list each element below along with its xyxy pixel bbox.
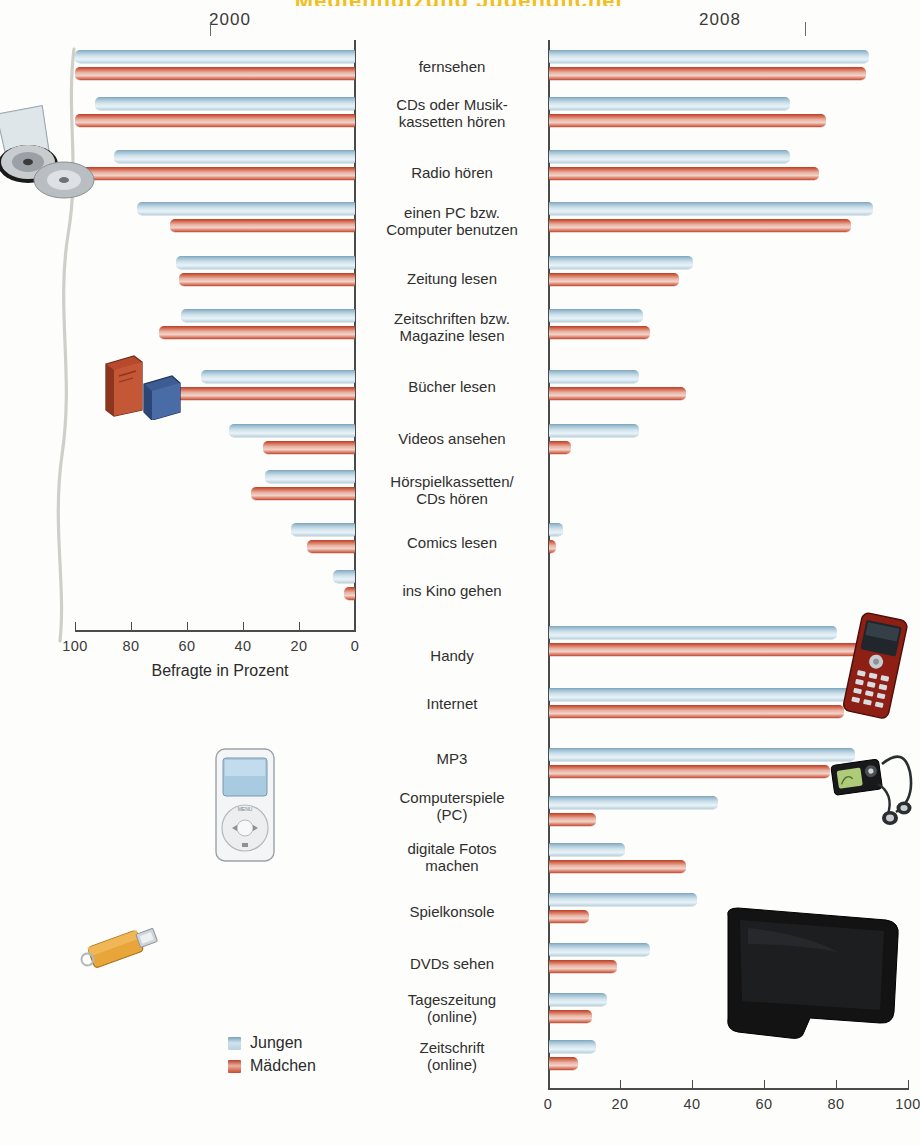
axis-tick-label-right: 0 <box>526 1096 570 1112</box>
bar-2008-jungen <box>549 256 693 269</box>
axis-vertical-right <box>548 40 550 1088</box>
category-label: Hörspielkassetten/CDs hören <box>358 473 546 507</box>
category-label-line: Radio hören <box>358 164 546 181</box>
category-label-line: Bücher lesen <box>358 378 546 395</box>
category-label: ins Kino gehen <box>358 582 546 599</box>
mobile-phone-illustration <box>838 612 916 722</box>
bar-2008-jungen <box>549 843 625 856</box>
bar-2008-maedchen <box>549 643 880 656</box>
category-label: Handy <box>358 647 546 664</box>
category-label-line: machen <box>358 857 546 874</box>
bar-2008-jungen <box>549 893 697 906</box>
bar-2008-maedchen <box>549 167 819 180</box>
bar-2008-maedchen <box>549 813 596 826</box>
category-label-line: CDs hören <box>358 490 546 507</box>
bar-2008-jungen <box>549 202 873 215</box>
axis-tick-label-left: 40 <box>221 638 265 654</box>
category-label: CDs oder Musik-kassetten hören <box>358 96 546 130</box>
bar-2008-maedchen <box>549 960 617 973</box>
category-label-line: Comics lesen <box>358 534 546 551</box>
bar-2000-jungen <box>181 309 355 322</box>
category-label: einen PC bzw.Computer benutzen <box>358 204 546 238</box>
axis-tick-label-right: 60 <box>742 1096 786 1112</box>
bar-2008-jungen <box>549 943 650 956</box>
axis-label-left: Befragte in Prozent <box>110 662 330 680</box>
page-title: Mediennutzung Jugendlicher <box>0 0 920 6</box>
bar-2000-jungen <box>75 50 355 63</box>
axis-tick-right <box>836 1080 837 1088</box>
category-label: Computerspiele(PC) <box>358 789 546 823</box>
bar-2008-maedchen <box>549 67 866 80</box>
legend-swatch-jungen <box>228 1037 241 1050</box>
bar-2008-jungen <box>549 626 837 639</box>
category-label-line: (online) <box>358 1056 546 1073</box>
category-label-line: kassetten hören <box>358 113 546 130</box>
svg-text:MENU: MENU <box>238 806 253 812</box>
category-label-line: DVDs sehen <box>358 955 546 972</box>
category-label: DVDs sehen <box>358 955 546 972</box>
bar-2000-jungen <box>201 370 355 383</box>
category-label-line: Computerspiele <box>358 789 546 806</box>
bar-2008-maedchen <box>549 1010 592 1023</box>
mp3-player-illustration <box>828 738 918 834</box>
axis-horizontal-right <box>548 1088 909 1090</box>
category-label-line: Zeitschrift <box>358 1039 546 1056</box>
bar-2008-jungen <box>549 688 855 701</box>
category-label: Videos ansehen <box>358 430 546 447</box>
usb-stick-illustration <box>72 920 172 978</box>
bar-2000-maedchen <box>251 487 355 500</box>
category-label-line: Magazine lesen <box>358 327 546 344</box>
category-label-line: (online) <box>358 1008 546 1025</box>
axis-tick-label-left: 20 <box>277 638 321 654</box>
bar-2008-maedchen <box>549 540 556 553</box>
legend-label-maedchen: Mädchen <box>250 1057 316 1075</box>
bar-2008-jungen <box>549 748 855 761</box>
bar-2008-jungen <box>549 50 869 63</box>
bar-2008-jungen <box>549 309 643 322</box>
category-label: Radio hören <box>358 164 546 181</box>
bar-2008-maedchen <box>549 114 826 127</box>
bar-2000-jungen <box>333 570 355 583</box>
title-rule-tick <box>805 22 806 36</box>
axis-tick-label-left: 60 <box>165 638 209 654</box>
category-label: Zeitschrift(online) <box>358 1039 546 1073</box>
category-label: Zeitschriften bzw.Magazine lesen <box>358 310 546 344</box>
axis-tick-left <box>187 622 188 630</box>
bar-2008-maedchen <box>549 326 650 339</box>
category-label: Internet <box>358 695 546 712</box>
bar-2008-jungen <box>549 97 790 110</box>
cd-stack-illustration <box>0 92 99 207</box>
bar-2000-maedchen <box>263 441 355 454</box>
axis-tick-right <box>548 1080 549 1088</box>
bar-2000-maedchen <box>75 67 355 80</box>
category-label-line: (PC) <box>358 806 546 823</box>
category-label: Tageszeitung(online) <box>358 991 546 1025</box>
year-label-right: 2008 <box>640 10 800 30</box>
bar-2000-maedchen <box>159 326 355 339</box>
axis-tick-right <box>764 1080 765 1088</box>
bar-2000-maedchen <box>344 587 355 600</box>
category-label: Zeitung lesen <box>358 270 546 287</box>
axis-tick-right <box>620 1080 621 1088</box>
category-label-line: fernsehen <box>358 58 546 75</box>
bar-2000-maedchen <box>170 219 355 232</box>
axis-tick-right <box>692 1080 693 1088</box>
bar-2000-jungen <box>176 256 355 269</box>
bar-2008-maedchen <box>549 705 844 718</box>
bar-2008-jungen <box>549 523 563 536</box>
category-label-line: CDs oder Musik- <box>358 96 546 113</box>
bar-2000-jungen <box>95 97 355 110</box>
category-label: Comics lesen <box>358 534 546 551</box>
category-label-line: Internet <box>358 695 546 712</box>
bar-2008-maedchen <box>549 765 830 778</box>
flatscreen-tv-illustration <box>718 900 908 1050</box>
category-label-line: ins Kino gehen <box>358 582 546 599</box>
axis-tick-left <box>355 622 356 630</box>
bar-2000-jungen <box>265 470 355 483</box>
bar-2008-maedchen <box>549 273 679 286</box>
bar-2008-maedchen <box>549 860 686 873</box>
category-label-line: einen PC bzw. <box>358 204 546 221</box>
panel-2000 <box>75 40 355 630</box>
legend-label-jungen: Jungen <box>250 1034 303 1052</box>
chart-page: Mediennutzung Jugendlicher 2000 2008 100… <box>0 0 920 1146</box>
